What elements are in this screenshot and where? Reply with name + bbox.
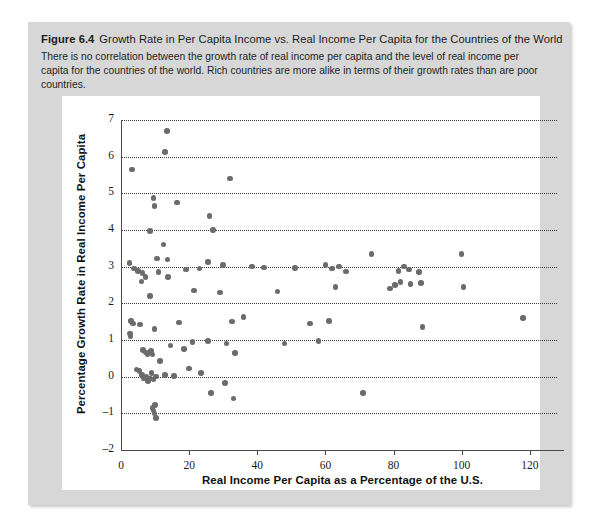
x-axis-tick-label: 60: [320, 459, 332, 471]
scatter-point: [171, 373, 177, 379]
scatter-point: [205, 338, 211, 344]
scatter-point: [207, 213, 213, 219]
y-axis-tick: 5: [62, 185, 114, 199]
scatter-point: [143, 274, 149, 280]
scatter-point: [147, 293, 153, 299]
scatter-point: [152, 203, 158, 209]
scatter-point: [232, 350, 238, 356]
y-axis-tick: –1: [62, 405, 114, 419]
y-axis-tick: 0: [62, 369, 114, 383]
scatter-point: [292, 265, 298, 271]
scatter-point: [275, 289, 281, 295]
y-axis-tick-label: 0: [92, 369, 114, 381]
scatter-point: [139, 279, 145, 285]
scatter-point: [396, 268, 402, 274]
scatter-point: [408, 281, 414, 287]
y-axis-title: Percentage Growth Rate in Real Income Pe…: [75, 104, 87, 444]
x-axis-tick-label: 20: [183, 459, 195, 471]
gridline: [121, 340, 557, 341]
scatter-point: [249, 264, 255, 270]
y-axis-tick: 4: [62, 222, 114, 236]
scatter-point: [153, 374, 159, 380]
x-axis-tick: 0: [101, 455, 141, 473]
gridline: [121, 413, 557, 414]
y-axis-tick-label: –2: [92, 442, 114, 454]
x-axis-tick-label: 80: [388, 459, 400, 471]
x-axis-line: [121, 450, 564, 451]
gridline: [121, 157, 557, 158]
x-axis-tick: 60: [305, 455, 345, 473]
scatter-point: [150, 352, 156, 358]
scatter-point: [420, 324, 426, 330]
gridline: [121, 303, 557, 304]
scatter-point: [343, 269, 349, 275]
y-axis-tick: 3: [62, 259, 114, 273]
scatter-point: [220, 262, 226, 268]
scatter-point: [261, 265, 267, 271]
scatter-point: [191, 288, 197, 294]
scatter-point: [326, 318, 332, 324]
scatter-point: [127, 260, 133, 266]
scatter-point: [198, 370, 204, 376]
scatter-point: [336, 264, 342, 270]
scatter-point: [151, 195, 157, 201]
scatter-point: [161, 242, 167, 248]
y-axis-tick: –2: [62, 442, 114, 456]
scatter-point: [174, 200, 180, 206]
figure-title: Growth Rate in Per Capita Income vs. Rea…: [99, 33, 562, 45]
scatter-point: [181, 346, 187, 352]
scatter-point: [210, 227, 216, 233]
y-axis-tick: 7: [62, 112, 114, 126]
y-axis-tick-label: 6: [92, 149, 114, 161]
figure-caption-text: There is no correlation between the grow…: [41, 50, 546, 93]
scatter-point: [323, 262, 329, 268]
scatter-point: [152, 402, 158, 408]
gridline: [121, 193, 557, 194]
y-axis-tick-label: 4: [92, 222, 114, 234]
y-axis-tick-label: 7: [92, 112, 114, 124]
scatter-point: [222, 380, 228, 386]
scatter-point: [186, 366, 192, 372]
x-axis-tick-label: 120: [521, 459, 538, 471]
scatter-point: [406, 267, 412, 273]
scatter-point: [129, 167, 135, 173]
scatter-point: [224, 341, 230, 347]
x-axis-tick-label: 40: [252, 459, 264, 471]
scatter-point: [333, 284, 339, 290]
scatter-point: [307, 321, 313, 327]
scatter-point: [282, 341, 288, 347]
scatter-point: [176, 320, 182, 326]
gridline: [121, 377, 557, 378]
figure-number: Figure 6.4: [41, 33, 94, 45]
plot-panel: –2–101234567 020406080100120 Percentage …: [62, 96, 540, 490]
scatter-point: [360, 390, 366, 396]
scatter-point: [208, 390, 214, 396]
scatter-point: [190, 339, 196, 345]
scatter-point: [165, 257, 171, 263]
gridline: [121, 230, 557, 231]
scatter-point: [205, 259, 211, 265]
scatter-point: [231, 396, 237, 402]
scatter-point: [197, 266, 203, 272]
y-axis-tick: 6: [62, 149, 114, 163]
scatter-point: [152, 326, 158, 332]
scatter-point: [156, 269, 162, 275]
y-axis-tick: 2: [62, 295, 114, 309]
x-axis-tick: 100: [442, 455, 482, 473]
scatter-plot-axes: –2–101234567 020406080100120 Percentage …: [62, 96, 540, 490]
scatter-point: [217, 290, 223, 296]
scatter-point: [418, 280, 424, 286]
scatter-point: [168, 343, 174, 349]
scatter-point: [227, 176, 233, 182]
scatter-point: [130, 321, 136, 327]
x-axis-tick-label: 100: [453, 459, 470, 471]
scatter-point: [461, 284, 467, 290]
figure-title-line: Figure 6.4Growth Rate in Per Capita Inco…: [41, 32, 553, 47]
scatter-point: [416, 269, 422, 275]
figure-card: Figure 6.4Growth Rate in Per Capita Inco…: [28, 22, 570, 505]
scatter-point: [316, 338, 322, 344]
scatter-point: [164, 128, 170, 134]
x-axis-tick: 40: [237, 455, 277, 473]
scatter-point: [147, 228, 153, 234]
x-axis-tick: 80: [374, 455, 414, 473]
